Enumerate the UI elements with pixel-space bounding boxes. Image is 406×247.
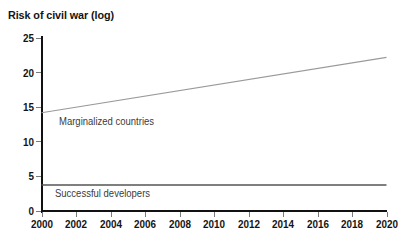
chart-figure: Risk of civil war (log) 0510152025 20002…: [0, 0, 406, 247]
line-marginalized-countries: [42, 57, 387, 112]
annotation-successful-developers: Successful developers: [55, 188, 150, 199]
annotation-marginalized-countries: Marginalized countries: [59, 116, 154, 127]
